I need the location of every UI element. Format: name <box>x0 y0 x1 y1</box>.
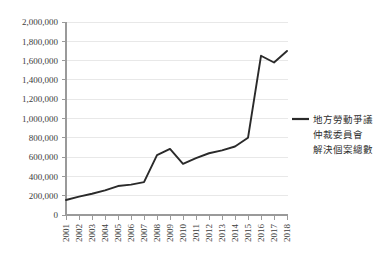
y-axis-tick-label: 1,400,000 <box>22 75 59 85</box>
x-axis-tick-label: 2004 <box>100 224 110 243</box>
x-axis-tick-label: 2015 <box>243 223 253 242</box>
legend-label: 解決個案總數 <box>313 144 373 155</box>
data-series-group <box>66 51 287 200</box>
x-axis-tick-label: 2005 <box>113 224 123 243</box>
line-chart: 2,000,0001,800,0001,600,0001,400,0001,20… <box>0 0 380 259</box>
y-axis-tick-label: 0 <box>54 210 59 220</box>
y-axis-tick-label: 400,000 <box>29 172 59 182</box>
x-axis-tick-label: 2003 <box>87 224 97 243</box>
y-axis-tick-label: 1,000,000 <box>22 114 59 124</box>
x-axis-tick-label: 2013 <box>217 224 227 243</box>
x-axis-tick-label: 2009 <box>165 224 175 243</box>
y-axis-tick-label: 200,000 <box>29 191 59 201</box>
legend-label: 仲裁委員會 <box>313 129 363 140</box>
chart-container: 2,000,0001,800,0001,600,0001,400,0001,20… <box>0 0 380 259</box>
x-axis-tick-label: 2014 <box>230 223 240 242</box>
x-axis-tick-label: 2016 <box>256 224 266 243</box>
x-axis-tick-label: 2018 <box>282 224 292 243</box>
gridlines <box>66 22 288 196</box>
x-axis-labels: 2001200220032004200520062007200820092010… <box>61 223 292 242</box>
x-axis-ticks <box>66 215 287 220</box>
x-axis-tick-label: 2007 <box>139 224 149 243</box>
y-axis-ticks <box>62 22 66 215</box>
x-axis-tick-label: 2017 <box>269 224 279 243</box>
x-axis-tick-label: 2012 <box>204 224 214 242</box>
y-axis-tick-label: 1,800,000 <box>22 37 59 47</box>
data-line-series <box>66 51 287 200</box>
x-axis-tick-label: 2008 <box>152 224 162 243</box>
legend: 地方勞動爭議仲裁委員會解決個案總數 <box>292 114 373 155</box>
legend-label: 地方勞動爭議 <box>313 114 373 125</box>
x-axis-tick-label: 2006 <box>126 224 136 243</box>
y-axis-tick-label: 1,600,000 <box>22 56 59 66</box>
y-axis-labels: 2,000,0001,800,0001,600,0001,400,0001,20… <box>22 17 59 220</box>
y-axis-tick-label: 800,000 <box>29 133 59 143</box>
x-axis-tick-label: 2002 <box>74 224 84 242</box>
x-axis-tick-label: 2011 <box>191 224 201 242</box>
y-axis-tick-label: 2,000,000 <box>22 17 59 27</box>
y-axis-tick-label: 1,200,000 <box>22 94 59 104</box>
x-axis-tick-label: 2010 <box>178 224 188 243</box>
x-axis-tick-label: 2001 <box>61 224 71 242</box>
y-axis-tick-label: 600,000 <box>29 152 59 162</box>
